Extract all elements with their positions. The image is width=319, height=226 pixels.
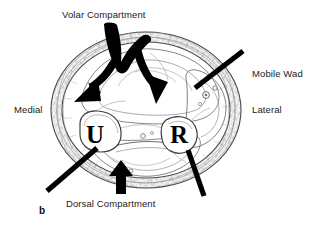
bone-label-ulna: U — [86, 122, 104, 147]
label-volar-compartment: Volar Compartment — [62, 9, 146, 20]
label-lateral: Lateral — [252, 104, 282, 115]
label-dorsal-compartment: Dorsal Compartment — [66, 198, 155, 209]
label-medial: Medial — [14, 104, 43, 115]
anatomical-figure: Volar Compartment Mobile Wad Medial Late… — [0, 0, 319, 226]
bone-label-radius: R — [170, 122, 188, 147]
label-mobile-wad: Mobile Wad — [252, 68, 303, 79]
figure-letter: b — [39, 205, 45, 216]
